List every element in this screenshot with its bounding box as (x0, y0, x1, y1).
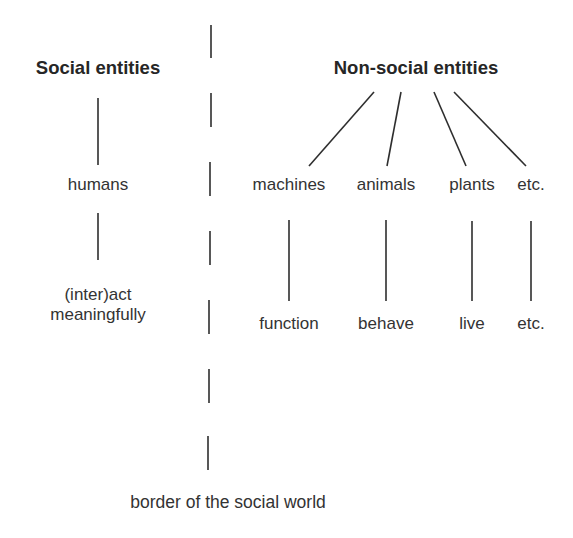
action-live: live (459, 314, 485, 334)
connector-nonsocial-animals (387, 92, 401, 166)
diagram-lines (0, 0, 573, 538)
action-etc: etc. (517, 314, 544, 334)
action-function: function (259, 314, 319, 334)
entity-machines: machines (253, 175, 326, 195)
social-border-dashed-line (208, 25, 211, 470)
non-social-entities-heading: Non-social entities (334, 58, 498, 78)
social-entities-heading: Social entities (36, 58, 160, 78)
interact-label-line1: (inter)act (64, 285, 131, 305)
humans-label: humans (68, 175, 128, 195)
entity-plants: plants (449, 175, 494, 195)
entity-etc: etc. (517, 175, 544, 195)
interact-label-line2: meaningfully (50, 305, 145, 325)
connector-nonsocial-machines (309, 92, 374, 166)
connector-nonsocial-etc (454, 92, 526, 166)
connector-nonsocial-plants (434, 92, 466, 166)
border-caption: border of the social world (130, 492, 326, 512)
entity-animals: animals (357, 175, 416, 195)
action-behave: behave (358, 314, 414, 334)
